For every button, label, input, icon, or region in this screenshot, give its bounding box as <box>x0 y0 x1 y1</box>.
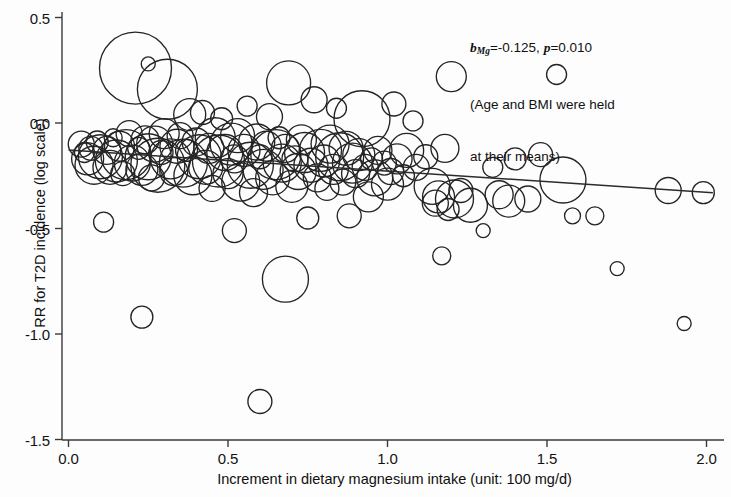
data-point-bubble <box>149 119 179 149</box>
data-point-bubble <box>243 149 283 189</box>
p-value: =0.010 <box>550 40 592 55</box>
x-tick-label: 0.5 <box>218 450 238 467</box>
coefficient-subscript: Mg <box>477 46 490 56</box>
data-point-bubble <box>677 316 691 330</box>
coefficient-symbol: b <box>470 40 477 55</box>
x-tick-label: 0.0 <box>58 450 78 467</box>
statistics-annotation: bMg=-0.125, p=0.010 (Age and BMI were he… <box>470 4 726 201</box>
y-tick-label: -1.5 <box>8 431 50 448</box>
data-point-bubble <box>436 62 466 92</box>
data-point-bubble <box>237 96 257 116</box>
data-point-bubble <box>141 57 155 71</box>
y-axis-title: RR for T2D incidence (log scale) <box>32 93 48 353</box>
x-axis-title: Increment in dietary magnesium intake (u… <box>0 471 731 487</box>
coefficient-value: =-0.125, <box>490 40 544 55</box>
data-point-bubble <box>301 87 327 113</box>
data-point-bubble <box>403 111 423 131</box>
data-point-bubble <box>262 256 308 302</box>
data-point-bubble <box>390 133 424 167</box>
data-point-bubble <box>137 59 197 119</box>
data-point-bubble <box>586 207 604 225</box>
data-point-bubble <box>131 306 153 328</box>
data-point-bubble <box>99 32 171 104</box>
data-point-bubble <box>267 61 311 105</box>
data-point-bubble <box>248 390 272 414</box>
x-tick-label: 1.0 <box>377 450 397 467</box>
data-point-bubble <box>297 207 319 229</box>
data-point-bubble <box>476 224 490 238</box>
data-point-bubble <box>610 262 624 276</box>
annotation-line-3: at their means) <box>470 148 726 166</box>
x-tick-label: 2.0 <box>696 450 716 467</box>
annotation-line-1: bMg=-0.125, p=0.010 <box>470 39 726 61</box>
data-point-bubble <box>222 219 246 243</box>
data-point-bubble <box>357 160 393 196</box>
data-point-bubble <box>94 212 114 232</box>
data-point-bubble <box>330 169 356 195</box>
x-tick-label: 1.5 <box>537 450 557 467</box>
bubble-scatter-figure: bMg=-0.125, p=0.010 (Age and BMI were he… <box>0 0 731 497</box>
y-tick-label: 0.5 <box>8 9 50 26</box>
data-point-bubble <box>256 104 282 130</box>
data-point-bubble <box>565 208 581 224</box>
data-point-bubble <box>433 247 451 265</box>
annotation-line-2: (Age and BMI were held <box>470 96 726 114</box>
data-point-bubble <box>174 99 206 131</box>
